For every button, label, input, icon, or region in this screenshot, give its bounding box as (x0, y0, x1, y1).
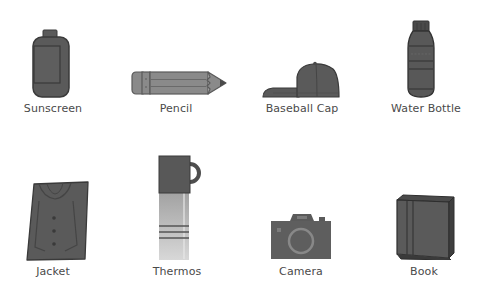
item-label: Jacket (36, 265, 70, 278)
item-label: Thermos (153, 265, 202, 278)
item-label: Sunscreen (24, 102, 82, 115)
item-label: Pencil (160, 102, 193, 115)
pencil-icon (130, 70, 228, 96)
thermos-icon (158, 155, 203, 261)
book-icon (395, 194, 455, 260)
camera-icon (270, 213, 332, 261)
jacket-icon (25, 181, 90, 261)
item-label: Water Bottle (391, 102, 461, 115)
item-label: Book (410, 265, 438, 278)
water-bottle-icon (407, 20, 435, 98)
item-label: Camera (279, 265, 323, 278)
item-label: Baseball Cap (266, 102, 339, 115)
baseball-cap-icon (261, 61, 343, 99)
sunscreen-bottle-icon (31, 29, 71, 99)
